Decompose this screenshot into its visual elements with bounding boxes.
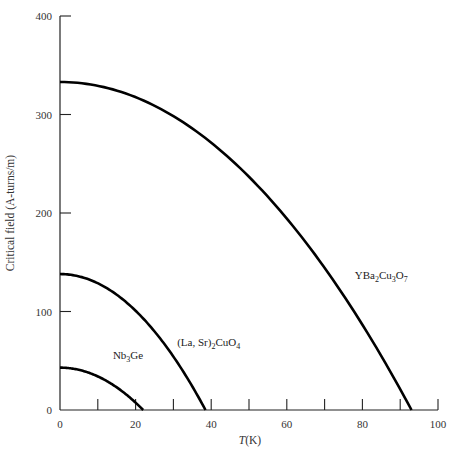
axes: 0100200300400020406080100 — [36, 10, 447, 430]
critical-field-chart: 0100200300400020406080100 Nb3Ge(La, Sr)2… — [0, 0, 458, 453]
x-axis-title-unit: (K) — [245, 434, 261, 447]
y-axis-title: Critical field (A-turns/m) — [4, 155, 17, 271]
y-tick-label: 400 — [36, 10, 53, 22]
curve-nb3ge — [60, 368, 143, 410]
curve-yba2cu3o7 — [60, 82, 412, 410]
curves — [60, 82, 412, 410]
y-tick-label: 0 — [47, 404, 53, 416]
x-tick-label: 20 — [130, 418, 142, 430]
x-tick-label: 60 — [281, 418, 293, 430]
x-tick-label: 80 — [357, 418, 369, 430]
y-tick-label: 200 — [36, 207, 53, 219]
x-tick-label: 40 — [206, 418, 218, 430]
series-label: (La, Sr)2CuO4 — [177, 336, 240, 351]
series-label: YBa2Cu3O7 — [355, 269, 408, 284]
series-label: Nb3Ge — [113, 349, 143, 364]
x-tick-label: 0 — [57, 418, 63, 430]
y-tick-label: 100 — [36, 306, 53, 318]
series-labels: Nb3Ge(La, Sr)2CuO4YBa2Cu3O7 — [113, 269, 408, 364]
y-tick-label: 300 — [36, 109, 53, 121]
x-axis-title: T(K) — [239, 434, 262, 447]
x-tick-label: 100 — [430, 418, 447, 430]
